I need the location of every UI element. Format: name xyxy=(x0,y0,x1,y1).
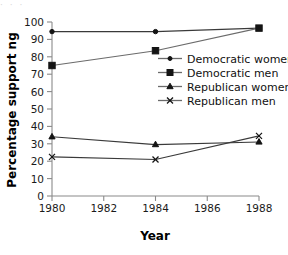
x-axis-title: Year xyxy=(139,229,170,243)
dot-marker xyxy=(153,29,157,33)
x-tick-label: 1980 xyxy=(39,202,66,214)
y-axis-title: Percentage support ng xyxy=(5,32,19,187)
y-tick-label: 0 xyxy=(37,190,44,202)
legend-item-democratic-women[interactable]: Democratic women xyxy=(158,53,288,66)
y-tick-label: 90 xyxy=(31,33,44,45)
line-chart: 100 90 80 70 60 50 40 30 20 10 0 1980 19… xyxy=(0,0,288,255)
x-tick-label: 1982 xyxy=(90,202,117,214)
dot-marker xyxy=(168,57,172,61)
square-marker xyxy=(256,25,262,31)
dot-marker xyxy=(50,29,54,33)
y-tick-label: 20 xyxy=(31,155,44,167)
square-marker xyxy=(49,62,55,68)
legend-label: Democratic women xyxy=(187,53,288,66)
legend-label: Republican women xyxy=(187,81,288,94)
y-tick-label: 60 xyxy=(31,86,44,98)
chart-page: · · · 100 xyxy=(0,0,288,255)
y-axis-ticks xyxy=(47,22,52,196)
legend-item-republican-women[interactable]: Republican women xyxy=(158,81,288,94)
x-tick-label: 1988 xyxy=(246,202,273,214)
chart-legend: Democratic women Democratic men Republic… xyxy=(158,53,288,108)
x-axis-ticks xyxy=(52,196,259,201)
y-tick-label: 100 xyxy=(24,16,44,28)
y-tick-label: 70 xyxy=(31,68,44,80)
x-axis-tick-labels: 1980 1982 1984 1986 1988 xyxy=(39,202,273,214)
series-republican-women xyxy=(49,133,262,146)
square-marker xyxy=(167,70,173,76)
x-tick-label: 1984 xyxy=(142,202,169,214)
y-tick-label: 40 xyxy=(31,120,44,132)
triangle-marker xyxy=(49,133,55,139)
y-tick-label: 30 xyxy=(31,138,44,150)
square-marker xyxy=(152,48,158,54)
legend-label: Democratic men xyxy=(187,67,278,80)
legend-item-democratic-men[interactable]: Democratic men xyxy=(158,67,278,80)
legend-label: Republican men xyxy=(187,95,276,108)
triangle-marker xyxy=(256,139,262,145)
y-tick-label: 80 xyxy=(31,51,44,63)
y-tick-label: 10 xyxy=(31,173,44,185)
y-axis-tick-labels: 100 90 80 70 60 50 40 30 20 10 0 xyxy=(24,16,44,202)
series-democratic-women xyxy=(50,26,261,34)
y-tick-label: 50 xyxy=(31,103,44,115)
legend-item-republican-men[interactable]: Republican men xyxy=(158,95,276,108)
x-tick-label: 1986 xyxy=(194,202,221,214)
series-republican-men xyxy=(49,133,262,163)
